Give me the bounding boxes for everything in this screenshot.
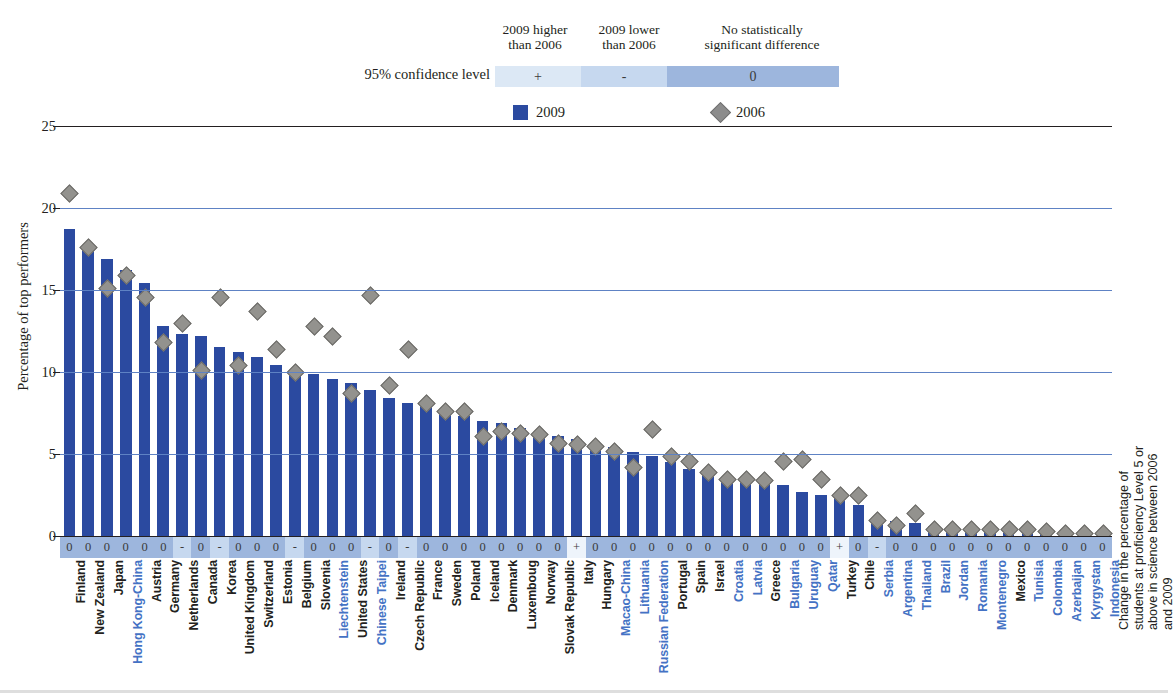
significance-cell: 0 (304, 537, 323, 558)
significance-cell: 0 (661, 537, 680, 558)
significance-cell: 0 (962, 537, 981, 558)
marker-2006 (380, 376, 398, 394)
bar-2009 (665, 462, 677, 536)
legend-item-2009: 2009 (513, 104, 565, 121)
marker-2006 (906, 504, 924, 522)
y-tick-mark (53, 454, 60, 455)
significance-cell: 0 (548, 537, 567, 558)
confidence-level-label: 95% confidence level (258, 66, 490, 83)
significance-cell: 0 (623, 537, 642, 558)
significance-cell: 0 (79, 537, 98, 558)
legend-header-lower: 2009 lower than 2006 (586, 22, 672, 52)
bar-2009 (139, 283, 151, 536)
bar-2009 (853, 505, 865, 536)
category-label: Croatia (732, 560, 746, 602)
significance-cell: 0 (680, 537, 699, 558)
category-label: Norway (544, 560, 558, 604)
significance-cell: 0 (191, 537, 210, 558)
significance-strip: 000000-0-000-000-0-00000000+000000000000… (60, 537, 1112, 558)
category-label: Hong Kong-China (131, 560, 145, 664)
category-label: United States (356, 560, 370, 638)
category-label: Portugal (676, 560, 690, 609)
significance-cell: 0 (98, 537, 117, 558)
significance-cell: 0 (886, 537, 905, 558)
significance-cell: 0 (267, 537, 286, 558)
significance-cell: 0 (135, 537, 154, 558)
category-label: Switzerland (262, 560, 276, 628)
significance-cell: + (567, 537, 586, 558)
significance-cell: 0 (1074, 537, 1093, 558)
significance-cell: 0 (1037, 537, 1056, 558)
gridline (60, 372, 1112, 373)
diamond-swatch-icon (710, 102, 731, 123)
bar-2009 (533, 433, 545, 536)
bar-2009 (420, 405, 432, 536)
gridline (60, 126, 1112, 127)
legend-header-higher: 2009 higher than 2006 (489, 22, 581, 52)
legend-header-lower-line2: than 2006 (586, 37, 672, 52)
category-label: Belgium (300, 560, 314, 608)
legend-header-higher-line1: 2009 higher (489, 22, 581, 37)
y-tick-mark (53, 208, 60, 209)
significance-cell: - (285, 537, 304, 558)
significance-cell: 0 (473, 537, 492, 558)
significance-cell: 0 (586, 537, 605, 558)
significance-cell: 0 (379, 537, 398, 558)
category-label: Denmark (506, 560, 520, 612)
category-label: Chile (863, 560, 877, 590)
bar-2009 (590, 446, 602, 536)
category-label: Netherlands (187, 560, 201, 631)
category-label: Azerbaijan (1070, 560, 1084, 622)
bar-2009 (702, 474, 714, 536)
category-label: Macao-China (619, 560, 633, 636)
significance-cell: 0 (736, 537, 755, 558)
category-label: New Zealand (93, 560, 107, 635)
significance-cell: - (210, 537, 229, 558)
y-axis-title: Percentage of top performers (15, 132, 32, 482)
category-label: Brazil (939, 560, 953, 593)
category-label: Lithuania (638, 560, 652, 614)
significance-cell: 0 (699, 537, 718, 558)
category-label: Serbia (882, 560, 896, 597)
significance-cell: 0 (436, 537, 455, 558)
category-label: Greece (769, 560, 783, 601)
category-label: Bulgaria (788, 560, 802, 609)
significance-cell: 0 (605, 537, 624, 558)
category-label: Germany (168, 560, 182, 613)
bar-2009 (683, 469, 695, 536)
category-label: Slovak Republic (563, 560, 577, 654)
significance-cell: 0 (717, 537, 736, 558)
category-label: Hungary (600, 560, 614, 610)
category-label: Japan (112, 560, 126, 595)
legend-label-2006: 2006 (736, 104, 765, 121)
category-label: Chinese Taipei (375, 560, 389, 645)
category-label: Jordan (957, 560, 971, 601)
bar-2009 (383, 398, 395, 536)
category-label: Liechtenstein (337, 560, 351, 639)
marker-2006 (324, 327, 342, 345)
bar-2009 (64, 229, 76, 536)
legend-header-lower-line1: 2009 lower (586, 22, 672, 37)
marker-2006 (267, 340, 285, 358)
significance-cell: 0 (492, 537, 511, 558)
marker-2006 (61, 185, 79, 203)
bar-series-2009 (60, 126, 1112, 536)
significance-cell: 0 (774, 537, 793, 558)
y-axis: 0510152025 (32, 126, 60, 536)
marker-2006 (850, 486, 868, 504)
legend-item-2006: 2006 (713, 104, 765, 121)
significance-cell: - (398, 537, 417, 558)
legend-header-nodiff: No statistically significant difference (676, 22, 848, 52)
category-label: Spain (694, 560, 708, 593)
bar-2009 (439, 413, 451, 536)
bar-2009 (327, 379, 339, 536)
category-label: Korea (225, 560, 239, 595)
bar-2009 (759, 482, 771, 536)
legend-block: 2009 higher than 2006 2009 lower than 20… (0, 8, 1168, 126)
bar-2009 (101, 259, 113, 536)
significance-swatch-row: + - 0 (495, 66, 839, 87)
y-tick-mark (53, 126, 60, 127)
category-label: France (431, 560, 445, 600)
significance-cell: 0 (999, 537, 1018, 558)
significance-cell: 0 (1055, 537, 1074, 558)
